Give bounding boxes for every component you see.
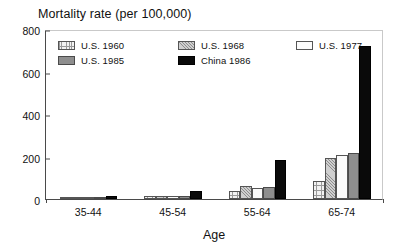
bar-u-s-1960-55-64 — [229, 191, 241, 200]
legend-item-u-s-1977: U.S. 1977 — [296, 40, 362, 51]
y-axis-tick-label: 0 — [34, 195, 40, 207]
bar-u-s-1985-55-64 — [263, 187, 275, 199]
bar-u-s-1985-45-54 — [179, 196, 191, 199]
x-axis-tick-label: 45-54 — [159, 206, 186, 218]
x-axis-tick-label: 35-44 — [75, 206, 102, 218]
legend-item-u-s-1985: U.S. 1985 — [58, 55, 124, 66]
y-axis-tick-mark — [46, 73, 50, 74]
bar-u-s-1968-45-54 — [156, 196, 168, 199]
legend-swatch-icon — [178, 56, 195, 65]
legend-item-china-1986: China 1986 — [178, 55, 251, 66]
y-axis-tick-mark — [46, 116, 50, 117]
legend-swatch-icon — [58, 41, 75, 50]
y-axis-tick-label: 800 — [22, 25, 40, 37]
bar-u-s-1977-45-54 — [167, 196, 179, 199]
legend-swatch-icon — [178, 41, 195, 50]
x-axis-tick-label: 65-74 — [328, 206, 355, 218]
x-axis-tick-mark — [383, 199, 384, 203]
mortality-rate-bar-chart: Mortality rate (per 100,000) 02004006008… — [0, 0, 399, 250]
legend-swatch-icon — [58, 56, 75, 65]
legend-label: U.S. 1968 — [201, 40, 244, 51]
bar-china-1986-55-64 — [275, 160, 287, 199]
legend-label: U.S. 1985 — [81, 55, 124, 66]
bar-u-s-1977-35-44 — [83, 197, 95, 199]
y-axis-tick-label: 400 — [22, 110, 40, 122]
bar-u-s-1960-35-44 — [60, 197, 72, 199]
bar-u-s-1985-65-74 — [348, 153, 360, 199]
x-axis-tick-label: 55-64 — [244, 206, 271, 218]
bar-u-s-1960-65-74 — [313, 181, 325, 199]
x-axis-title: Age — [45, 228, 383, 242]
bar-u-s-1977-55-64 — [252, 188, 264, 199]
legend-label: China 1986 — [201, 55, 251, 66]
legend-swatch-icon — [296, 41, 313, 50]
y-axis-tick-mark — [46, 31, 50, 32]
y-axis-tick-mark — [46, 158, 50, 159]
legend-label: U.S. 1977 — [319, 40, 362, 51]
bar-u-s-1968-35-44 — [71, 197, 83, 199]
bar-u-s-1960-45-54 — [144, 196, 156, 199]
x-axis-tick-mark — [46, 199, 47, 203]
bar-u-s-1985-35-44 — [94, 197, 106, 199]
bar-u-s-1968-65-74 — [325, 158, 337, 199]
bar-u-s-1968-55-64 — [240, 186, 252, 199]
chart-title: Mortality rate (per 100,000) — [38, 7, 192, 21]
legend-item-u-s-1960: U.S. 1960 — [58, 40, 124, 51]
bar-china-1986-35-44 — [106, 196, 118, 199]
bar-china-1986-65-74 — [359, 46, 371, 199]
bar-china-1986-45-54 — [190, 191, 202, 200]
y-axis-tick-label: 600 — [22, 68, 40, 80]
legend-item-u-s-1968: U.S. 1968 — [178, 40, 244, 51]
legend-label: U.S. 1960 — [81, 40, 124, 51]
bar-u-s-1977-65-74 — [336, 155, 348, 199]
y-axis-tick-label: 200 — [22, 153, 40, 165]
